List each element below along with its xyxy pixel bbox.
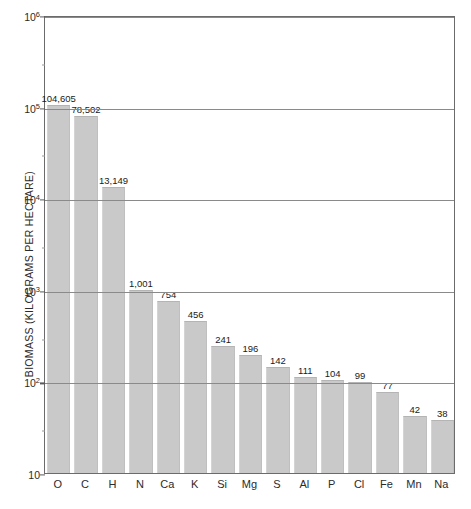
y-axis-tick-label: 10: [28, 469, 40, 481]
bar-value-label: 1,001: [129, 278, 153, 289]
x-axis-label-si: Si: [208, 478, 235, 490]
bar-value-label: 78,502: [72, 104, 101, 115]
x-axis-label-na: Na: [428, 478, 455, 490]
x-axis-label-n: N: [126, 478, 153, 490]
y-axis-title: BIOMASS (KILOGRAMS PER HECTARE): [23, 144, 35, 404]
x-axis-label-fe: Fe: [373, 478, 400, 490]
bar-value-label: 13,149: [99, 175, 128, 186]
y-axis-tick-label: 102: [24, 377, 40, 389]
bar-value-label: 38: [437, 408, 448, 419]
bar-value-label: 77: [382, 380, 393, 391]
x-axis-label-al: Al: [291, 478, 318, 490]
y-axis-tick-mark: [40, 291, 45, 292]
y-axis-tick-mark: [40, 16, 45, 17]
x-axis-label-mg: Mg: [236, 478, 263, 490]
bar-value-label: 104: [325, 368, 341, 379]
bar-fe[interactable]: 77: [376, 392, 399, 473]
bar-mn[interactable]: 42: [403, 416, 426, 473]
bar-c[interactable]: 78,502: [74, 116, 97, 473]
y-axis-tick-mark: [40, 383, 45, 384]
x-axis-label-cl: Cl: [345, 478, 372, 490]
bar-value-label: 142: [270, 355, 286, 366]
bar-value-label: 104,605: [42, 93, 76, 104]
y-axis-tick-mark: [40, 474, 45, 475]
gridline: [45, 109, 454, 110]
bar-value-label: 99: [355, 370, 366, 381]
y-axis-tick-label: 104: [24, 194, 40, 206]
bar-al[interactable]: 111: [294, 377, 317, 473]
gridline: [45, 200, 454, 201]
y-axis-tick-label: 103: [24, 286, 40, 298]
bars-layer: 104,60578,50213,1491,0017544562411961421…: [45, 17, 454, 473]
bar-cl[interactable]: 99: [348, 382, 371, 473]
gridline: [45, 383, 454, 384]
bar-value-label: 754: [160, 289, 176, 300]
x-axis-label-o: O: [44, 478, 71, 490]
x-axis-label-p: P: [318, 478, 345, 490]
x-axis-label-ca: Ca: [154, 478, 181, 490]
y-axis-minor-tick: [42, 64, 46, 65]
bar-ca[interactable]: 754: [157, 301, 180, 473]
y-axis-minor-tick: [42, 431, 46, 432]
gridline: [45, 17, 454, 18]
y-axis-minor-tick: [42, 156, 46, 157]
y-axis-tick-mark: [40, 200, 45, 201]
bar-na[interactable]: 38: [431, 420, 454, 473]
y-axis-tick-label: 106: [24, 11, 40, 23]
bar-value-label: 196: [243, 343, 259, 354]
x-axis-label-c: C: [71, 478, 98, 490]
bar-value-label: 42: [410, 404, 421, 415]
gridline: [45, 292, 454, 293]
y-axis-minor-tick: [42, 248, 46, 249]
bar-o[interactable]: 104,605: [47, 105, 70, 473]
bar-p[interactable]: 104: [321, 380, 344, 473]
bar-h[interactable]: 13,149: [102, 187, 125, 473]
y-axis-tick-label: 105: [24, 103, 40, 115]
y-axis-tick-mark: [40, 108, 45, 109]
bar-si[interactable]: 241: [211, 346, 234, 473]
x-axis-label-s: S: [263, 478, 290, 490]
bar-k[interactable]: 456: [184, 321, 207, 473]
x-axis-label-h: H: [99, 478, 126, 490]
x-axis-label-k: K: [181, 478, 208, 490]
bar-n[interactable]: 1,001: [129, 290, 152, 473]
y-axis-minor-tick: [42, 339, 46, 340]
bar-value-label: 456: [188, 309, 204, 320]
bar-mg[interactable]: 196: [239, 355, 262, 473]
bar-value-label: 241: [215, 334, 231, 345]
bar-value-label: 111: [298, 365, 312, 376]
x-axis-label-mn: Mn: [400, 478, 427, 490]
plot-area: 104,60578,50213,1491,0017544562411961421…: [44, 16, 455, 474]
biomass-bar-chart: BIOMASS (KILOGRAMS PER HECTARE) 104,6057…: [0, 0, 471, 509]
